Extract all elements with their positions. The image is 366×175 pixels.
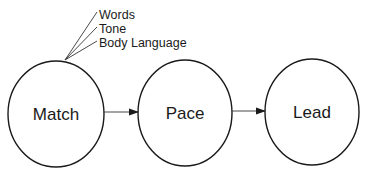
annotation-body-language: Body Language <box>99 36 187 50</box>
annotation-words: Words <box>99 8 135 22</box>
node-pace-label: Pace <box>166 104 205 123</box>
node-match-label: Match <box>33 105 79 124</box>
node-lead: Lead <box>265 59 359 165</box>
annotation-tone: Tone <box>99 22 126 36</box>
node-pace: Pace <box>138 60 232 166</box>
node-lead-label: Lead <box>293 103 331 122</box>
match-pace-lead-diagram: Words Tone Body Language Match Pace Lead <box>0 0 366 175</box>
node-match: Match <box>8 61 104 167</box>
annotation-lines <box>65 12 97 60</box>
